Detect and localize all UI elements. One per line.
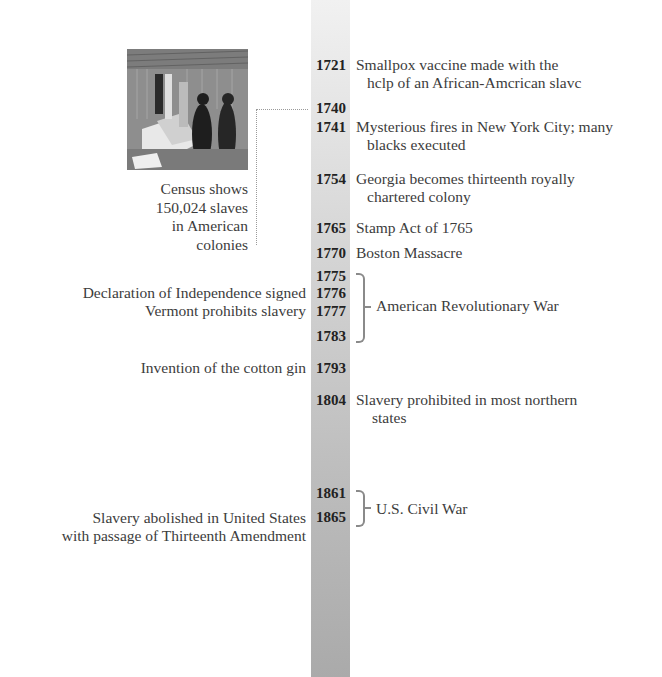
connector-line bbox=[256, 109, 257, 245]
event-text: Mysterious fires in New York City; many bbox=[356, 118, 613, 135]
year-1861: 1861 bbox=[313, 485, 349, 502]
event-text-cont: states bbox=[356, 409, 577, 427]
bracket-icon bbox=[356, 273, 365, 343]
year-1765: 1765 bbox=[313, 220, 349, 237]
event-1804: Slavery prohibited in most northern stat… bbox=[356, 391, 577, 427]
event-1793: Invention of the cotton gin bbox=[141, 359, 306, 377]
connector-line bbox=[256, 109, 308, 110]
event-1765: Stamp Act of 1765 bbox=[356, 219, 473, 237]
event-1776: Declaration of Independence signed bbox=[83, 284, 306, 302]
year-1777: 1777 bbox=[313, 303, 349, 320]
event-text-cont: blacks executed bbox=[356, 136, 613, 154]
year-1775: 1775 bbox=[313, 268, 349, 285]
event-text-cont: with passage of Thirteenth Amendment bbox=[62, 527, 306, 545]
event-1777: Vermont prohibits slavery bbox=[145, 302, 306, 320]
year-1721: 1721 bbox=[313, 57, 349, 74]
event-1721: Smallpox vaccine made with the hclp of a… bbox=[356, 56, 581, 92]
era-label: American Revolutionary War bbox=[376, 297, 559, 315]
bracket-tip bbox=[365, 507, 371, 509]
bracket-icon bbox=[356, 490, 365, 527]
event-1865: Slavery abolished in United States with … bbox=[62, 509, 306, 545]
event-text: Boston Massacre bbox=[356, 244, 462, 261]
event-text: Slavery prohibited in most northern bbox=[356, 391, 577, 408]
event-text: Stamp Act of 1765 bbox=[356, 219, 473, 236]
event-text-cont: chartered colony bbox=[356, 188, 575, 206]
year-1804: 1804 bbox=[313, 392, 349, 409]
caption-line: Census shows bbox=[120, 180, 248, 199]
caption-line: 150,024 slaves bbox=[120, 199, 248, 218]
year-1754: 1754 bbox=[313, 171, 349, 188]
photo-caption: Census shows 150,024 slaves in American … bbox=[120, 180, 248, 254]
event-1741: Mysterious fires in New York City; many … bbox=[356, 118, 613, 154]
engraving-image bbox=[127, 49, 248, 170]
year-1776: 1776 bbox=[313, 285, 349, 302]
event-text: Slavery abolished in United States bbox=[62, 509, 306, 527]
year-1740: 1740 bbox=[313, 100, 349, 117]
event-text: Smallpox vaccine made with the bbox=[356, 56, 558, 73]
caption-line: in American bbox=[120, 217, 248, 236]
year-1865: 1865 bbox=[313, 509, 349, 526]
slave-auction-engraving bbox=[127, 49, 248, 170]
year-1793: 1793 bbox=[313, 360, 349, 377]
event-1770: Boston Massacre bbox=[356, 244, 462, 262]
caption-line: colonies bbox=[120, 236, 248, 255]
year-1770: 1770 bbox=[313, 245, 349, 262]
event-text-cont: hclp of an African-Amcrican slavc bbox=[356, 74, 581, 92]
year-1741: 1741 bbox=[313, 119, 349, 136]
year-1783: 1783 bbox=[313, 328, 349, 345]
event-text: Georgia becomes thirteenth royally bbox=[356, 170, 575, 187]
event-1754: Georgia becomes thirteenth royally chart… bbox=[356, 170, 575, 206]
bracket-tip bbox=[365, 306, 371, 308]
era-label: U.S. Civil War bbox=[376, 500, 467, 518]
